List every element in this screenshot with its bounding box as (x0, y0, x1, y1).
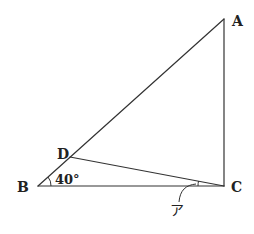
label-angle-b: 40° (55, 172, 80, 187)
label-b: B (17, 179, 29, 195)
triangle-diagram: A B C D 40° ア (0, 0, 254, 234)
angle-arc-c (198, 181, 199, 186)
label-a: A (231, 13, 244, 29)
angle-arc-b (48, 177, 51, 186)
label-angle-a-kana: ア (170, 202, 184, 218)
segment-dc (70, 157, 224, 186)
label-d: D (57, 146, 69, 162)
leader-line (179, 184, 196, 202)
label-c: C (231, 179, 242, 195)
